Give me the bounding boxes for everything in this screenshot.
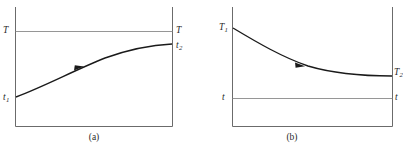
panel-b-curve-start-subscript: 1 bbox=[225, 26, 228, 33]
panel-a-caption: (a) bbox=[54, 133, 134, 143]
panel-b-curve-end-subscript: 2 bbox=[400, 71, 403, 78]
panel-a-frame bbox=[16, 7, 173, 127]
panel-b-level-label-left: t bbox=[222, 93, 225, 103]
panel-b-curve-start-label: T1 bbox=[219, 23, 228, 33]
panel-a-curve-start-label: t1 bbox=[3, 93, 9, 103]
panel-a-level-label-right: T bbox=[176, 26, 181, 36]
panel-b-process-curve bbox=[233, 28, 392, 76]
panel-b-caption: (b) bbox=[252, 133, 332, 143]
panel-b-level-label-right: t bbox=[395, 93, 398, 103]
panel-b-curve-start-symbol: T bbox=[219, 22, 224, 32]
panel-b-curve-end-symbol: T bbox=[394, 67, 399, 77]
panel-a-level-label-left: T bbox=[3, 26, 8, 36]
panel-a-process-curve bbox=[16, 44, 172, 97]
panel-b-curve-end-label: T2 bbox=[394, 68, 403, 78]
panel-a-curve-end-subscript: 2 bbox=[179, 44, 182, 51]
panel-a-curve-end-label: t2 bbox=[176, 41, 182, 51]
panel-a-curve-start-subscript: 1 bbox=[6, 96, 9, 103]
